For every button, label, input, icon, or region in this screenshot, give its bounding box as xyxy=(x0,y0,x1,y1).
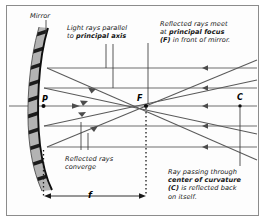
caption-parallel-line1: Light rays parallel xyxy=(67,24,127,32)
caption-focus-line2-bold: principal focus xyxy=(169,28,225,36)
label-pole: P xyxy=(42,95,48,104)
reflected-rays xyxy=(44,60,257,160)
caption-parallel-rays: Light rays parallel to principal axis xyxy=(67,24,147,40)
caption-focus-line2-pre: at xyxy=(160,28,169,36)
label-center-of-curvature: C xyxy=(237,93,243,102)
caption-curvature-line3-bold: (C) xyxy=(168,184,179,192)
reflected-ray-4 xyxy=(44,80,257,126)
focal-arrow-left xyxy=(44,193,51,198)
label-focal-length: f xyxy=(88,190,92,200)
axis-arrow-left xyxy=(202,103,208,109)
caption-center-of-curvature: Ray passing through center of curvature … xyxy=(168,168,260,201)
caption-focus-line3-post: in front of mirror. xyxy=(171,36,231,44)
caption-curvature-line1: Ray passing through xyxy=(168,168,237,176)
mirror-body xyxy=(28,27,52,191)
caption-reflected-converge: Reflected rays converge xyxy=(65,155,137,171)
axis-arrow-right-of-pole xyxy=(72,103,80,109)
caption-curvature-line3-post: is reflected back xyxy=(179,184,237,192)
center-of-curvature-point xyxy=(238,104,241,107)
pole-point xyxy=(42,104,46,108)
reflected-ray-1 xyxy=(47,68,257,160)
caption-mirror-text: Mirror xyxy=(30,12,50,20)
caption-parallel-line2-bold: principal axis xyxy=(76,32,126,40)
caption-curvature-line4: on itself. xyxy=(168,193,197,201)
caption-mirror: Mirror xyxy=(30,12,50,20)
focal-arrow-right xyxy=(139,193,146,198)
caption-focus-line3-bold: (F) xyxy=(160,36,171,44)
focus-point xyxy=(144,104,148,108)
reflected-ray-5 xyxy=(47,60,257,147)
caption-principal-focus: Reflected rays meet at principal focus (… xyxy=(160,20,255,45)
ray-diagram-figure: Mirror Light rays parallel to principal … xyxy=(0,0,267,223)
reflected-ray-2 xyxy=(44,88,257,134)
label-focus: F xyxy=(137,94,142,103)
caption-converge-line2: converge xyxy=(65,163,96,171)
caption-focus-line1: Reflected rays meet xyxy=(160,20,228,28)
caption-converge-line1: Reflected rays xyxy=(65,155,113,163)
caption-curvature-line2-bold: center of curvature xyxy=(168,176,241,184)
caption-parallel-line2-pre: to xyxy=(67,32,76,40)
